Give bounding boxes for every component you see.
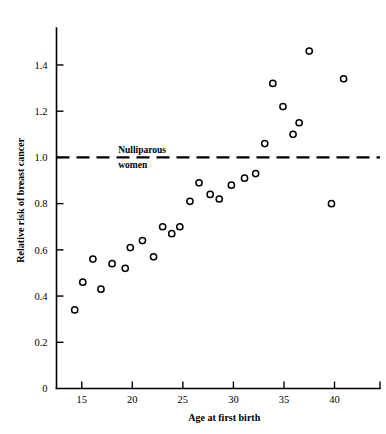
data-point	[160, 224, 166, 230]
data-point	[228, 182, 234, 188]
x-axis-tick-label: 40	[329, 394, 340, 405]
y-axis-title: Relative risk of breast cancer	[15, 137, 26, 262]
x-axis-tick-label: 25	[178, 394, 189, 405]
axes	[57, 28, 381, 389]
data-point	[328, 201, 334, 207]
chart-figure: Nulliparouswomen 00.20.40.60.81.01.21.41…	[0, 0, 386, 434]
y-axis-tick-label: 1.4	[34, 60, 48, 71]
x-axis-tick-label: 30	[228, 394, 239, 405]
axis-labels-group: 00.20.40.60.81.01.21.4152025303540Age at…	[15, 60, 340, 423]
data-point	[109, 261, 115, 267]
data-point	[241, 175, 247, 181]
data-point	[80, 279, 86, 285]
data-point	[253, 170, 259, 176]
data-point	[341, 76, 347, 82]
y-axis-tick-label: 1.2	[34, 106, 47, 117]
data-point	[296, 120, 302, 126]
data-point	[290, 131, 296, 137]
y-axis-tick-label: 0.2	[34, 337, 47, 348]
y-axis-tick-label: 0.6	[34, 245, 47, 256]
reference-line-group: Nulliparouswomen	[57, 145, 381, 170]
data-point	[262, 140, 268, 146]
data-point	[150, 254, 156, 260]
x-axis-tick-label: 35	[279, 394, 290, 405]
data-point	[98, 286, 104, 292]
data-point	[196, 180, 202, 186]
scatter-plot: Nulliparouswomen 00.20.40.60.81.01.21.41…	[0, 0, 386, 434]
y-axis-tick-label: 0	[42, 383, 47, 394]
data-point	[127, 244, 133, 250]
data-point	[169, 231, 175, 237]
x-axis-tick-label: 20	[127, 394, 138, 405]
data-point	[306, 48, 312, 54]
data-point	[90, 256, 96, 262]
data-point	[207, 191, 213, 197]
x-axis-title: Age at first birth	[188, 412, 260, 423]
data-point	[122, 265, 128, 271]
data-point	[139, 238, 145, 244]
x-axis-tick-label: 15	[77, 394, 88, 405]
nulliparous-reference-label-line2: women	[118, 160, 148, 170]
y-axis-tick-label: 0.4	[34, 291, 48, 302]
data-points-group	[72, 48, 347, 313]
data-point	[216, 196, 222, 202]
y-axis-tick-label: 1.0	[34, 152, 47, 163]
nulliparous-reference-label-line1: Nulliparous	[118, 145, 166, 155]
y-axis-tick-label: 0.8	[34, 198, 47, 209]
data-point	[270, 80, 276, 86]
data-point	[187, 198, 193, 204]
data-point	[72, 307, 78, 313]
data-point	[280, 103, 286, 109]
data-point	[177, 224, 183, 230]
